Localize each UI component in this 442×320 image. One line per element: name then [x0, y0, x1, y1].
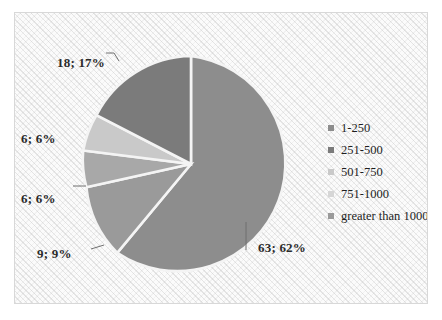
data-label-501-750: 6; 6%	[21, 131, 56, 147]
chart-legend: 1-250 251-500 501-750 751-1000 greater t…	[328, 117, 428, 227]
data-label-751-1000: 6; 6%	[21, 191, 56, 207]
legend-swatch-icon	[328, 191, 334, 197]
chart-plot-area: 18; 17% 6; 6% 6; 6% 9; 9% 63; 62% 1-250 …	[14, 12, 428, 304]
legend-item-501-750[interactable]: 501-750	[328, 161, 428, 183]
legend-label: 501-750	[341, 166, 383, 179]
legend-label: 1-250	[341, 122, 370, 135]
legend-label: 751-1000	[341, 188, 389, 201]
data-label-greater-than-1000: 9; 9%	[37, 246, 72, 262]
legend-swatch-icon	[328, 169, 334, 175]
legend-swatch-icon	[328, 213, 334, 219]
legend-swatch-icon	[328, 125, 334, 131]
data-label-1-250: 63; 62%	[258, 240, 306, 256]
leader-line-greater-than-1000	[91, 245, 104, 249]
legend-swatch-icon	[328, 147, 334, 153]
leader-line-251-500	[106, 53, 119, 61]
chart-screenshot: 18; 17% 6; 6% 6; 6% 9; 9% 63; 62% 1-250 …	[0, 0, 442, 320]
legend-item-251-500[interactable]: 251-500	[328, 139, 428, 161]
legend-item-1-250[interactable]: 1-250	[328, 117, 428, 139]
legend-item-greater-than-1000[interactable]: greater than 1000	[328, 205, 428, 227]
legend-label: 251-500	[341, 144, 383, 157]
data-label-251-500: 18; 17%	[57, 55, 105, 71]
legend-label: greater than 1000	[341, 210, 428, 223]
legend-item-751-1000[interactable]: 751-1000	[328, 183, 428, 205]
